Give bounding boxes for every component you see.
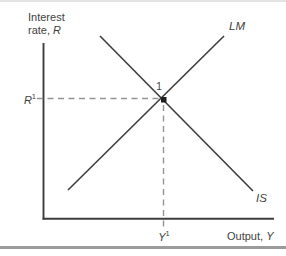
y1-axis-label: Y1 — [153, 227, 175, 244]
equilibrium-marker — [161, 97, 167, 103]
x-axis-symbol: Y — [266, 230, 273, 242]
islm-figure: Interest rate, R R1 1 LM IS Y1 Output, Y — [0, 0, 286, 256]
y1-base: Y — [158, 231, 165, 243]
is-curve — [100, 36, 253, 191]
is-curve-label: IS — [256, 192, 267, 205]
equilibrium-point-label: 1 — [153, 80, 165, 93]
r1-sup: 1 — [32, 92, 36, 101]
x-axis-title-text: Output, — [227, 230, 263, 242]
x-axis-title: Output, Y — [227, 230, 273, 243]
islm-plot — [0, 0, 286, 256]
lm-curve-label: LM — [229, 20, 245, 33]
y-axis-title-line2: rate, — [28, 24, 50, 36]
r1-base: R — [24, 94, 32, 106]
lm-curve — [68, 36, 224, 190]
bottom-rule — [0, 246, 286, 249]
r1-axis-label: R1 — [16, 90, 36, 107]
y-axis-symbol: R — [53, 24, 61, 36]
y1-sup: 1 — [166, 229, 170, 238]
y-axis-title-line1: Interest — [28, 11, 65, 23]
y-axis-title: Interest rate, R — [28, 11, 65, 37]
